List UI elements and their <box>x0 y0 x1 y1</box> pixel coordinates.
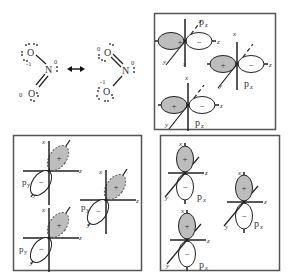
svg-text:z: z <box>219 102 223 110</box>
svg-text:y: y <box>27 182 30 188</box>
svg-text:y: y <box>224 223 229 231</box>
svg-text:−: − <box>182 182 187 192</box>
svg-text:y: y <box>164 121 169 129</box>
charge-bottom-left: 0 <box>19 91 22 98</box>
charge-top-right: 0 <box>97 45 100 52</box>
svg-text:x: x <box>184 74 189 82</box>
svg-text:y: y <box>164 194 169 202</box>
pz-orbital-3: + − p z z y x <box>158 74 223 131</box>
nitrite-structure-right: O 0 N 0 O -1 <box>96 43 135 102</box>
svg-text:z: z <box>250 83 253 90</box>
px-orbital-2: + − p x z y x <box>224 169 267 233</box>
svg-text:z: z <box>78 167 82 175</box>
svg-text:z: z <box>201 122 204 129</box>
panel-py-orbitals: + − p y z y x + − p y z y x + − p y z y <box>14 136 142 273</box>
svg-text:x: x <box>41 206 46 214</box>
charge-n-left: 0 <box>54 58 57 65</box>
py-orbital-1: + − p y z y x <box>22 138 82 205</box>
svg-text:+: + <box>182 154 187 164</box>
svg-text:x: x <box>259 223 263 230</box>
panel-pz-orbitals: + − p z z y x + − p z z y x + − p z z y <box>155 14 276 132</box>
resonance-arrow-icon <box>67 66 85 72</box>
svg-text:−: − <box>248 60 253 70</box>
svg-text:+: + <box>113 182 118 192</box>
svg-text:−: − <box>196 37 201 47</box>
svg-text:z: z <box>268 61 272 69</box>
oxygen-top-right: O <box>104 47 111 58</box>
svg-text:p: p <box>195 117 200 128</box>
px-orbital-3: + − p x z y x <box>165 207 210 271</box>
svg-text:+: + <box>56 220 61 230</box>
nitrogen-left: N <box>45 64 52 75</box>
panel-px-orbitals: + − p x z y x + − p x z y x + − p x z y <box>161 136 280 272</box>
svg-text:p: p <box>199 16 204 27</box>
oxygen-bottom-left: O <box>28 88 35 99</box>
svg-text:+: + <box>56 153 61 163</box>
py-orbital-3: + − p y z y x <box>19 206 82 272</box>
svg-text:y: y <box>165 262 170 270</box>
svg-text:z: z <box>206 237 210 245</box>
px-orbital-1: + − p x z y x <box>164 140 208 204</box>
svg-text:y: y <box>24 249 27 255</box>
svg-text:p: p <box>197 191 202 202</box>
pz-orbital-1: + − p z z y x <box>155 16 220 68</box>
svg-text:p: p <box>244 78 249 89</box>
py-orbital-2: + − p y z y x <box>80 168 139 234</box>
oxygen-top-left: O <box>27 47 34 58</box>
oxygen-bottom-right: O <box>103 86 110 97</box>
svg-text:z: z <box>135 197 139 205</box>
svg-text:p: p <box>254 218 259 229</box>
svg-text:+: + <box>241 183 246 193</box>
svg-text:+: + <box>177 37 182 47</box>
nitrite-structure-left: O -1 N 0 O 0 <box>19 43 58 102</box>
svg-text:+: + <box>171 101 176 111</box>
svg-text:−: − <box>241 211 246 221</box>
svg-text:x: x <box>204 264 208 271</box>
svg-text:x: x <box>182 60 187 68</box>
svg-text:+: + <box>184 221 189 231</box>
svg-text:p: p <box>199 259 204 270</box>
orbital-diagram: O -1 N 0 O 0 <box>0 0 289 280</box>
svg-text:−: − <box>184 249 189 259</box>
charge-top-left: -1 <box>26 60 31 67</box>
svg-text:x: x <box>41 138 46 146</box>
svg-text:y: y <box>86 207 89 213</box>
svg-text:z: z <box>78 234 82 242</box>
svg-text:+: + <box>220 60 225 70</box>
svg-text:x: x <box>232 30 237 38</box>
svg-text:z: z <box>204 169 208 177</box>
svg-text:z: z <box>216 38 220 46</box>
svg-text:−: − <box>38 177 43 187</box>
svg-text:z: z <box>263 198 267 206</box>
svg-text:x: x <box>98 168 103 176</box>
svg-text:x: x <box>202 196 206 203</box>
svg-text:−: − <box>199 101 204 111</box>
svg-text:z: z <box>205 21 208 28</box>
charge-bottom-right: -1 <box>100 78 105 85</box>
svg-text:−: − <box>95 206 100 216</box>
nitrogen-right: N <box>122 65 129 76</box>
resonance-structures: O -1 N 0 O 0 <box>19 43 135 102</box>
svg-text:−: − <box>38 244 43 254</box>
charge-n-right: 0 <box>131 59 134 66</box>
